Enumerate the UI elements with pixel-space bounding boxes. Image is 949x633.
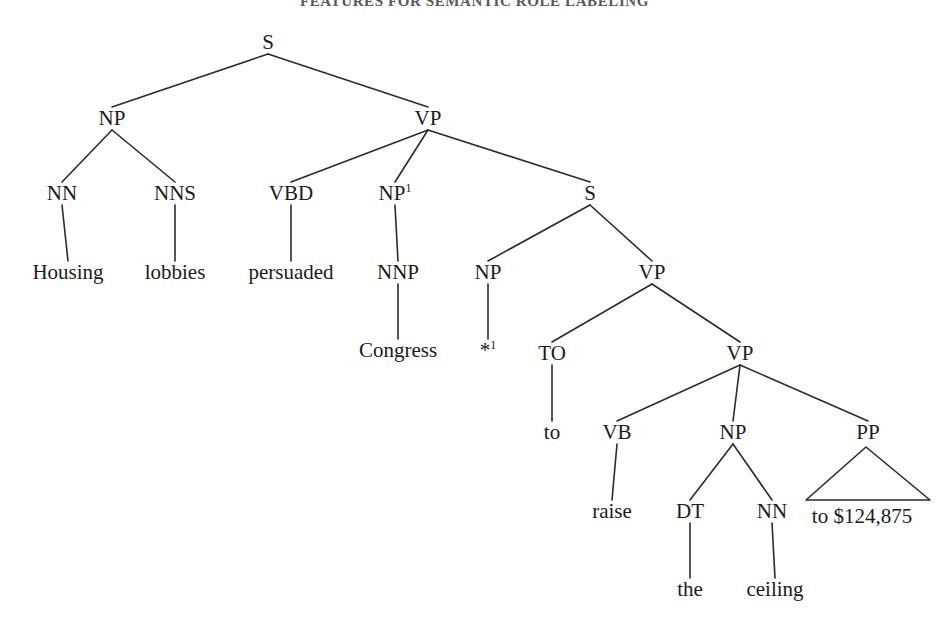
tree-edge — [395, 205, 398, 261]
tree-word-leaf: Congress — [359, 340, 437, 361]
tree-trace-leaf: *1 — [480, 340, 497, 361]
tree-node-pp: PP — [856, 422, 879, 443]
tree-edge-group — [62, 54, 868, 578]
coindex-superscript: 1 — [490, 338, 496, 352]
tree-edge — [740, 365, 868, 421]
tree-node-np: NP — [99, 108, 126, 129]
tree-edge — [112, 54, 268, 107]
tree-node-vp: VP — [639, 262, 666, 283]
tree-edge — [652, 284, 740, 342]
tree-word-leaf: Housing — [32, 262, 103, 283]
tree-node-np: NP — [720, 422, 747, 443]
tree-edge — [62, 130, 112, 182]
tree-node-vp: VP — [727, 343, 754, 364]
tree-word-leaf: to — [544, 422, 560, 443]
tree-edge — [62, 205, 68, 261]
tree-edge — [268, 54, 428, 107]
tree-word-leaf: lobbies — [145, 262, 206, 283]
tree-node-vb: VB — [602, 422, 631, 443]
tree-word-leaf: persuaded — [248, 262, 333, 283]
tree-node-nn: NN — [757, 501, 787, 522]
tree-node-nns: NNS — [154, 183, 196, 204]
tree-node-np: NP — [475, 262, 502, 283]
tree-node-vp: VP — [415, 108, 442, 129]
tree-edge — [395, 130, 428, 182]
coindex-superscript: 1 — [405, 181, 411, 195]
tree-node-to: TO — [538, 343, 566, 364]
tree-edge — [733, 365, 740, 421]
tree-edge — [690, 444, 733, 500]
tree-word-leaf: to $124,875 — [812, 506, 912, 527]
tree-node-np-1: NP1 — [379, 183, 412, 204]
tree-edge — [590, 205, 652, 261]
tree-edge — [612, 444, 617, 500]
parse-tree-figure: FEATURES FOR SEMANTIC ROLE LABELING SNPV… — [0, 0, 949, 633]
tree-edge — [772, 523, 775, 578]
tree-word-leaf: the — [677, 579, 703, 600]
tree-word-leaf: ceiling — [746, 579, 803, 600]
pp-ellipsis-triangle-group — [806, 447, 930, 500]
pp-ellipsis-triangle — [806, 447, 930, 500]
tree-edge — [488, 205, 590, 261]
tree-node-nn: NN — [47, 183, 77, 204]
tree-node-vbd: VBD — [269, 183, 313, 204]
tree-edge — [428, 130, 590, 182]
tree-node-dt: DT — [676, 501, 704, 522]
tree-edge — [733, 444, 772, 500]
tree-node-nnp: NNP — [377, 262, 419, 283]
tree-node-s: S — [262, 32, 274, 53]
tree-edges-canvas — [0, 0, 949, 633]
tree-edge — [617, 365, 740, 421]
tree-node-s: S — [584, 183, 596, 204]
tree-edge — [112, 130, 175, 182]
tree-edge — [552, 284, 652, 342]
tree-word-leaf: raise — [592, 501, 632, 522]
tree-edge — [291, 130, 428, 182]
